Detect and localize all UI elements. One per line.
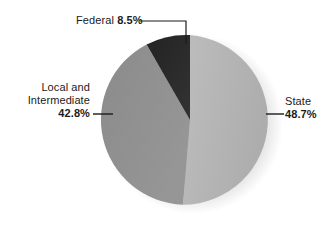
slice-label-federal-name: Federal [76,14,114,26]
slice-label-local-and-intermediate: Local and Intermediate 42.8% [0,81,90,120]
pie-chart: Federal 8.5% Local and Intermediate 42.8… [0,0,336,225]
slice-label-local-name-line1: Local and [0,81,90,94]
slice-label-federal-value: 8.5% [117,14,142,26]
slice-label-state-value: 48.7% [285,108,317,121]
slice-label-state: State 48.7% [285,95,317,121]
slice-label-federal: Federal 8.5% [76,14,143,27]
slice-label-local-value: 42.8% [0,107,90,120]
slice-label-state-name: State [285,95,317,108]
slice-label-local-name-line2: Intermediate [0,94,90,107]
